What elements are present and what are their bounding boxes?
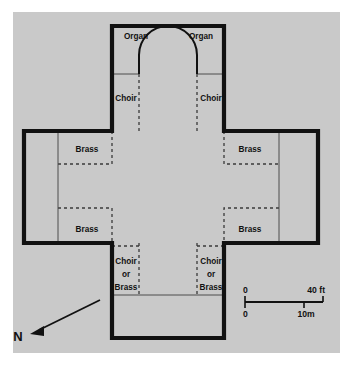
label-choir-or-brass-left-line3: Brass [115,283,138,292]
label-brass-upper-left: Brass [76,145,99,154]
label-brass-upper-right: Brass [239,145,262,154]
scale-label-feet-start: 0 [243,285,248,295]
label-choir-or-brass-left-line1: Choir [115,257,137,266]
scale-label-metres-start: 0 [243,309,248,319]
label-choir-right: Choir [200,94,222,103]
floor-plan-svg: Organ Organ Choir Choir Brass Brass Bras… [0,0,352,370]
label-choir-or-brass-left-line2: or [122,270,131,279]
floor-plan-figure: Organ Organ Choir Choir Brass Brass Bras… [0,0,352,370]
label-organ-right: Organ [189,32,213,41]
label-choir-left: Choir [115,94,137,103]
label-brass-lower-right: Brass [239,225,262,234]
label-organ-left: Organ [124,32,148,41]
north-label: N [13,329,22,344]
label-choir-or-brass-right-line3: Brass [200,283,223,292]
scale-label-metres-mid: 10m [297,309,315,319]
scale-label-feet-end: 40 ft [307,285,325,295]
label-brass-lower-left: Brass [76,225,99,234]
label-choir-or-brass-right-line1: Choir [200,257,222,266]
label-choir-or-brass-right-line2: or [207,270,216,279]
